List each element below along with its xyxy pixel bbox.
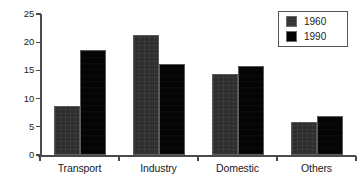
bar-industry-1960	[133, 35, 159, 155]
y-axis-tick-label: 10	[8, 94, 34, 104]
y-axis-tick-label: 0	[8, 150, 34, 160]
bar-domestic-1990	[238, 66, 264, 155]
bar-transport-1960	[54, 106, 80, 155]
x-axis-tick	[118, 156, 119, 161]
bar-domestic-1960	[212, 74, 238, 155]
y-axis-tick-label: 20	[8, 37, 34, 47]
legend-label-1960: 1960	[304, 17, 326, 27]
y-axis-tick-label: 5	[8, 122, 34, 132]
legend: 1960 1990	[278, 11, 348, 47]
y-axis-tick-label: 15	[8, 65, 34, 75]
legend-item-1990: 1990	[286, 31, 326, 42]
x-axis-tick	[355, 156, 356, 161]
bar-industry-1990	[159, 64, 185, 155]
x-axis-label-others: Others	[277, 163, 356, 174]
bar-others-1960	[291, 122, 317, 155]
x-axis-tick	[197, 156, 198, 161]
x-axis-label-industry: Industry	[119, 163, 198, 174]
bar-chart: 0510152025 TransportIndustryDomesticOthe…	[0, 0, 364, 184]
legend-item-1960: 1960	[286, 16, 326, 27]
x-axis-tick	[276, 156, 277, 161]
legend-swatch-1990	[286, 31, 297, 42]
x-axis-label-domestic: Domestic	[198, 163, 277, 174]
x-axis-label-transport: Transport	[40, 163, 119, 174]
y-axis-tick-label: 25	[8, 9, 34, 19]
legend-label-1990: 1990	[304, 32, 326, 42]
bar-others-1990	[317, 116, 343, 155]
legend-swatch-1960	[286, 16, 297, 27]
x-axis-tick	[39, 156, 40, 161]
bar-transport-1990	[80, 50, 106, 155]
